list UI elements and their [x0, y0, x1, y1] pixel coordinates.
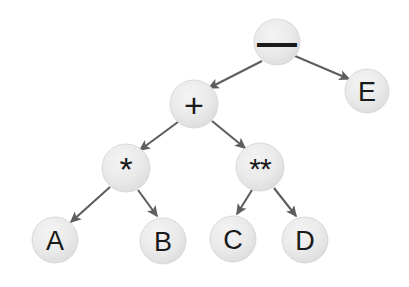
node-label-star: * — [119, 150, 132, 188]
tree-edge-plus-to-star — [140, 122, 178, 150]
node-label-c: C — [223, 225, 243, 255]
edges-layer — [71, 56, 349, 222]
node-label-d: D — [295, 226, 315, 256]
tree-node-a[interactable]: A — [32, 217, 78, 263]
tree-node-plus[interactable]: + — [170, 80, 218, 128]
tree-node-d[interactable]: D — [282, 217, 328, 263]
tree-edge-star-to-b — [138, 190, 157, 216]
node-label-b: B — [154, 227, 172, 257]
tree-edge-dstar-to-d — [274, 188, 296, 216]
node-label-e: E — [358, 77, 376, 107]
tree-node-b[interactable]: B — [140, 218, 186, 264]
tree-node-dstar[interactable]: ** — [236, 143, 284, 191]
tree-edge-minus-to-e — [295, 56, 349, 79]
node-label-a: A — [46, 226, 64, 256]
expression-tree-svg: —E+***ABCD — [0, 0, 409, 287]
tree-edge-star-to-a — [71, 187, 110, 222]
tree-edge-plus-to-dstar — [212, 121, 245, 148]
nodes-layer: —E+***ABCD — [32, 19, 389, 264]
tree-node-minus[interactable]: — — [254, 19, 300, 65]
tree-node-c[interactable]: C — [210, 216, 256, 262]
node-label-minus: — — [257, 20, 297, 64]
tree-edge-minus-to-plus — [209, 61, 262, 88]
tree-edge-dstar-to-c — [237, 190, 252, 214]
tree-node-star[interactable]: * — [102, 144, 150, 192]
diagram-canvas: —E+***ABCD — [0, 0, 409, 287]
node-label-plus: + — [184, 86, 204, 124]
tree-node-e[interactable]: E — [345, 69, 389, 113]
node-label-dstar: ** — [249, 152, 272, 185]
